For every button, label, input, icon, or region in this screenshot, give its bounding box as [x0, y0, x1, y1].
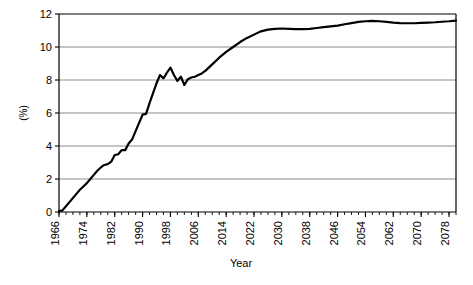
chart-container: 024681012 196619741982199019982006201420…	[0, 0, 473, 285]
y-tick-label-2: 2	[46, 173, 52, 185]
x-axis-title: Year	[230, 257, 253, 269]
x-tick-label-2006: 2006	[188, 221, 200, 245]
x-tick-label-2038: 2038	[300, 221, 312, 245]
chart-background	[0, 0, 473, 285]
x-axis-tick-labels: 1966197419821990199820062014202220302038…	[49, 221, 451, 245]
y-tick-label-4: 4	[46, 140, 52, 152]
x-tick-label-1974: 1974	[77, 221, 89, 245]
y-tick-label-12: 12	[40, 8, 52, 20]
y-tick-label-8: 8	[46, 74, 52, 86]
x-tick-label-1982: 1982	[105, 221, 117, 245]
y-tick-label-10: 10	[40, 41, 52, 53]
x-tick-label-2014: 2014	[216, 221, 228, 245]
x-tick-label-2070: 2070	[411, 221, 423, 245]
x-tick-label-2022: 2022	[244, 221, 256, 245]
x-tick-label-2078: 2078	[439, 221, 451, 245]
y-tick-label-6: 6	[46, 107, 52, 119]
y-axis-title: (%)	[18, 105, 29, 121]
x-tick-label-2062: 2062	[383, 221, 395, 245]
x-tick-label-2054: 2054	[355, 221, 367, 245]
line-chart: 024681012 196619741982199019982006201420…	[0, 0, 473, 285]
x-tick-label-2046: 2046	[328, 221, 340, 245]
x-tick-label-1966: 1966	[49, 221, 61, 245]
x-tick-label-1990: 1990	[133, 221, 145, 245]
x-tick-label-1998: 1998	[160, 221, 172, 245]
x-tick-label-2030: 2030	[272, 221, 284, 245]
y-tick-label-0: 0	[46, 206, 52, 218]
